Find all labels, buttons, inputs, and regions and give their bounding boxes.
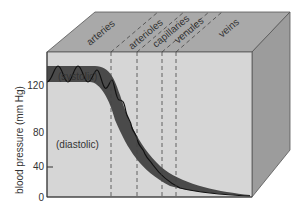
tick-label-0: 0 [38, 192, 44, 203]
tick-label-120: 120 [27, 80, 44, 91]
tick-label-40: 40 [33, 161, 45, 172]
y-axis-label: blood pressure (mm Hg) [14, 86, 25, 194]
systolic-label: (systolic) [58, 71, 97, 82]
diastolic-label: (diastolic) [56, 139, 99, 150]
tick-label-80: 80 [33, 127, 45, 138]
blood-pressure-box-diagram: 0 40 80 120 blood pressure (mm Hg) (syst… [0, 0, 304, 217]
